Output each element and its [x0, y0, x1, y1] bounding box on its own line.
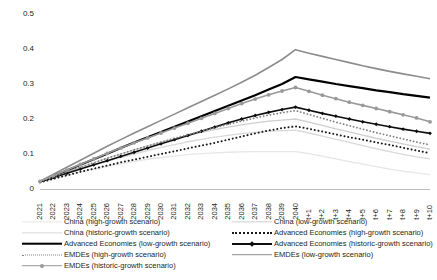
series-marker — [374, 122, 378, 126]
series-marker — [361, 103, 365, 107]
plot-area — [40, 14, 430, 189]
series-marker — [388, 110, 392, 114]
legend-line — [232, 254, 272, 256]
series-marker — [132, 141, 136, 145]
series-marker — [321, 93, 325, 97]
legend-swatch-icon — [22, 250, 62, 260]
series-marker — [253, 97, 257, 101]
series-marker — [347, 117, 351, 121]
series-marker — [294, 86, 298, 90]
legend-item[interactable]: China (high-growth scenario) — [22, 216, 234, 227]
legend-item[interactable]: EMDEs (historic-growth scenario) — [22, 260, 234, 271]
series-marker — [146, 136, 150, 140]
series-marker — [334, 114, 338, 118]
series-marker — [415, 129, 419, 133]
legend-line — [22, 242, 62, 245]
legend-swatch-icon — [232, 239, 272, 249]
series-marker — [280, 108, 284, 112]
legend-line — [22, 221, 62, 222]
legend-item[interactable]: Advanced Economies (historic-growth scen… — [232, 238, 437, 249]
legend-label: EMDEs (historic-growth scenario) — [64, 261, 176, 271]
legend-label: China (low-growth scenario) — [274, 217, 367, 227]
legend-item[interactable]: China (historic-growth scenario) — [22, 227, 234, 238]
legend-label: China (high-growth scenario) — [64, 217, 160, 227]
series-layer — [40, 14, 430, 189]
y-tick-label: 0.5 — [23, 10, 34, 18]
legend-label: EMDEs (high-growth scenario) — [64, 250, 166, 260]
series-marker — [334, 97, 338, 101]
series-marker — [347, 100, 351, 104]
legend-line — [22, 232, 62, 233]
legend-item[interactable]: EMDEs (low-growth scenario) — [232, 249, 437, 260]
legend-swatch-icon — [22, 217, 62, 227]
series-marker — [415, 116, 419, 120]
legend-item[interactable]: EMDEs (high-growth scenario) — [22, 249, 234, 260]
series-marker — [401, 113, 405, 117]
series-marker — [401, 127, 405, 131]
y-tick-label: 0.3 — [23, 80, 34, 88]
series-marker — [105, 151, 109, 155]
legend-label: Advanced Economies (low-growth scenario) — [64, 239, 210, 249]
chart-legend: China (high-growth scenario)China (histo… — [0, 216, 437, 280]
series-marker — [307, 89, 311, 93]
series-marker — [267, 93, 271, 97]
series-marker — [321, 112, 325, 116]
series-marker — [428, 131, 432, 135]
y-tick-label: 0.1 — [23, 150, 34, 158]
legend-column-right: China (low-growth scenario)Advanced Econ… — [232, 216, 437, 260]
series-marker — [38, 179, 42, 183]
series-marker — [52, 174, 56, 178]
legend-label: Advanced Economies (historic-growth scen… — [274, 239, 433, 249]
legend-swatch-icon — [232, 250, 272, 260]
series-marker — [213, 112, 217, 116]
legend-swatch-icon — [22, 261, 62, 271]
y-tick-label: 0 — [30, 185, 34, 193]
series-marker — [294, 105, 298, 109]
series-marker — [226, 107, 230, 111]
legend-item[interactable]: China (low-growth scenario) — [232, 216, 437, 227]
legend-line — [22, 254, 62, 255]
legend-item[interactable]: Advanced Economies (high-growth scenario… — [232, 227, 437, 238]
y-axis: 00.10.20.30.40.5 — [0, 0, 38, 190]
series-marker — [307, 108, 311, 112]
series-marker — [119, 146, 123, 150]
y-tick-label: 0.4 — [23, 45, 34, 53]
series-line — [40, 107, 430, 182]
legend-swatch-icon — [232, 217, 272, 227]
series-marker — [361, 120, 365, 124]
line-chart: 00.10.20.30.40.5 20212022202320242025202… — [0, 0, 437, 280]
legend-label: Advanced Economies (high-growth scenario… — [274, 228, 423, 238]
series-marker — [388, 125, 392, 129]
legend-label: China (historic-growth scenario) — [64, 228, 170, 238]
series-marker — [199, 116, 203, 120]
series-marker — [65, 168, 69, 172]
legend-line — [232, 221, 272, 222]
series-marker — [173, 126, 177, 130]
legend-marker-icon — [40, 264, 44, 268]
series-marker — [240, 102, 244, 106]
series-marker — [267, 110, 271, 114]
series-marker — [186, 121, 190, 125]
legend-label: EMDEs (low-growth scenario) — [274, 250, 373, 260]
legend-swatch-icon — [22, 228, 62, 238]
legend-line — [232, 232, 272, 234]
series-5 — [38, 105, 432, 183]
legend-swatch-icon — [22, 239, 62, 249]
series-marker — [78, 163, 82, 167]
legend-swatch-icon — [232, 228, 272, 238]
legend-item[interactable]: Advanced Economies (low-growth scenario) — [22, 238, 234, 249]
series-marker — [374, 107, 378, 111]
legend-column-left: China (high-growth scenario)China (histo… — [22, 216, 234, 271]
series-marker — [280, 89, 284, 93]
series-marker — [159, 131, 163, 135]
y-tick-label: 0.2 — [23, 115, 34, 123]
series-marker — [92, 157, 96, 161]
series-marker — [428, 120, 432, 124]
